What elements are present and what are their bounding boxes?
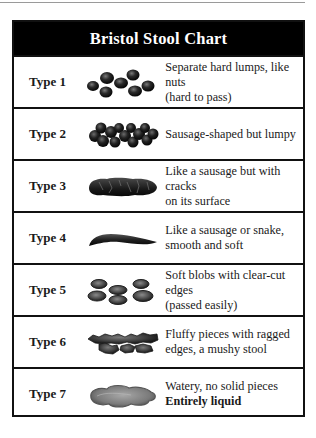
description-line-2: (hard to pass) bbox=[165, 90, 303, 105]
chart-row-type-6: Type 6 Fluffy pieces with ragged edges, … bbox=[14, 315, 303, 367]
description-line-1: Watery, no solid pieces bbox=[165, 379, 303, 394]
description-line-1: Separate hard lumps, like nuts bbox=[165, 60, 303, 90]
type-label: Type 5 bbox=[14, 282, 75, 298]
type-description: Sausage-shaped but lumpy bbox=[165, 127, 303, 142]
cracked-sausage-icon bbox=[85, 166, 161, 206]
chart-row-type-2: Type 2 Sausage-shaped but lumpy bbox=[14, 107, 303, 159]
type-label: Type 1 bbox=[14, 74, 75, 90]
description-line-1: Sausage-shaped but lumpy bbox=[165, 127, 303, 142]
description-line-2: edges, a mushy stool bbox=[165, 342, 303, 357]
type-description: Watery, no solid pieces Entirely liquid bbox=[165, 379, 303, 409]
type-description: Like a sausage or snake, smooth and soft bbox=[165, 223, 303, 253]
type-description: Fluffy pieces with ragged edges, a mushy… bbox=[165, 327, 303, 357]
description-line-1: Like a sausage but with cracks bbox=[165, 164, 303, 194]
type-description: Separate hard lumps, like nuts (hard to … bbox=[165, 60, 303, 105]
chart-row-type-3: Type 3 Like a sausage but with cracks on… bbox=[14, 159, 303, 211]
type-label: Type 6 bbox=[14, 334, 75, 350]
type-description: Like a sausage but with cracks on its su… bbox=[165, 164, 303, 209]
chart-title: Bristol Stool Chart bbox=[14, 22, 303, 55]
top-rule bbox=[0, 2, 305, 3]
description-line-2-emphasis: Entirely liquid bbox=[165, 394, 303, 409]
description-line-1: Soft blobs with clear-cut edges bbox=[165, 268, 303, 298]
chart-row-type-7: Type 7 Watery, no solid pieces Entirely … bbox=[14, 367, 303, 419]
type-label: Type 7 bbox=[14, 386, 75, 402]
fluffy-pieces-icon bbox=[85, 322, 161, 362]
description-line-1: Like a sausage or snake, bbox=[165, 223, 303, 238]
description-line-2: (passed easily) bbox=[165, 298, 303, 313]
type-label: Type 3 bbox=[14, 178, 75, 194]
description-line-1: Fluffy pieces with ragged bbox=[165, 327, 303, 342]
chart-row-type-4: Type 4 Like a sausage or snake, smooth a… bbox=[14, 211, 303, 263]
soft-blobs-icon bbox=[85, 270, 161, 310]
separate-hard-lumps-icon bbox=[85, 62, 161, 102]
description-line-2: smooth and soft bbox=[165, 238, 303, 253]
chart-row-type-5: Type 5 Soft blobs with clear bbox=[14, 263, 303, 315]
type-description: Soft blobs with clear-cut edges (passed … bbox=[165, 268, 303, 313]
description-line-2: on its surface bbox=[165, 194, 303, 209]
lumpy-sausage-icon bbox=[85, 114, 161, 154]
chart-row-type-1: Type 1 Separate hard lumps, like nuts (h… bbox=[14, 55, 303, 107]
type-label: Type 4 bbox=[14, 230, 75, 246]
type-label: Type 2 bbox=[14, 126, 75, 142]
bristol-stool-chart: Bristol Stool Chart Type 1 Separate ha bbox=[12, 20, 305, 417]
smooth-snake-icon bbox=[85, 218, 161, 258]
watery-puddle-icon bbox=[85, 374, 161, 414]
